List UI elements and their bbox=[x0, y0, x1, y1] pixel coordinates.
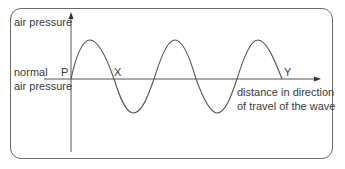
x-axis-label-line2: of travel of the wave bbox=[237, 100, 335, 113]
baseline-label-line2: air pressure bbox=[14, 80, 72, 93]
x-axis-arrow-icon bbox=[314, 77, 321, 82]
x-axis-label-line1: distance in direction bbox=[237, 86, 334, 99]
point-p-label: P bbox=[61, 66, 68, 79]
y-axis-label: air pressure bbox=[14, 16, 72, 29]
point-x-label: X bbox=[114, 66, 121, 79]
point-y-label: Y bbox=[284, 66, 291, 79]
baseline-label-line1: normal bbox=[14, 66, 48, 79]
